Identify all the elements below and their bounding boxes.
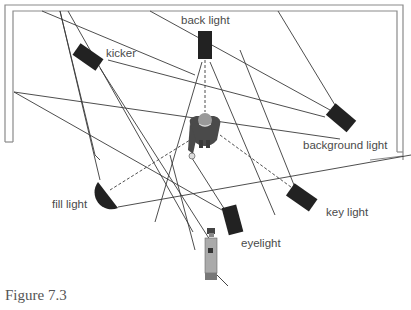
label-key-light: key light [326, 207, 368, 219]
fill-light-fixture [95, 182, 118, 209]
kicker-fixture [73, 43, 104, 71]
lighting-diagram: back light kicker background light fill … [0, 0, 411, 310]
back-light-fixture [198, 31, 212, 59]
camera-figure [205, 228, 228, 286]
eyelight-fixture [222, 204, 244, 235]
label-back-light: back light [181, 15, 230, 27]
label-eyelight: eyelight [241, 238, 281, 250]
label-background-light: background light [303, 140, 387, 152]
label-kicker: kicker [106, 48, 136, 60]
figure-caption: Figure 7.3 [5, 287, 67, 304]
background-light-fixture [326, 103, 356, 132]
diagram-canvas [0, 0, 411, 310]
key-light-fixture [286, 183, 318, 211]
subject-figure [188, 113, 220, 159]
label-fill-light: fill light [52, 199, 87, 211]
